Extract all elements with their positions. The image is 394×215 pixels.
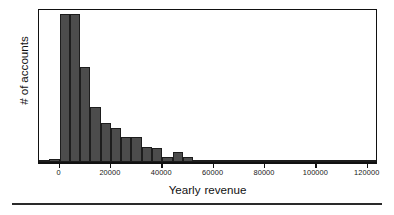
plot-area [38, 9, 377, 163]
x-axis-tick-label: 0 [56, 168, 60, 177]
x-axis-tick-label: 120000 [354, 168, 379, 177]
histogram-figure: 020000400006000080000100000120000 Yearly… [0, 0, 394, 215]
histogram-bar [131, 137, 141, 162]
histogram-bar [142, 147, 152, 162]
x-axis-tick-label: 100000 [303, 168, 328, 177]
x-axis-title: Yearlyrevenue [38, 183, 377, 196]
x-axis-tick-label: 40000 [151, 168, 172, 177]
histogram-bar [121, 137, 131, 162]
histogram-bar [111, 128, 121, 162]
histogram-bar [80, 67, 90, 162]
histogram-bar [60, 14, 70, 162]
x-axis-tick-label: 20000 [99, 168, 120, 177]
x-axis-tick-label: 60000 [202, 168, 223, 177]
x-axis-tick-label: 80000 [253, 168, 274, 177]
histogram-bar [90, 107, 100, 162]
y-axis-title: #ofaccounts [17, 0, 30, 146]
histogram-bars [39, 10, 376, 162]
histogram-bar [152, 148, 162, 162]
bottom-rule [12, 203, 382, 205]
histogram-bar [70, 14, 80, 162]
histogram-bar [173, 152, 183, 162]
x-axis-line [38, 162, 377, 164]
histogram-bar [101, 123, 111, 162]
